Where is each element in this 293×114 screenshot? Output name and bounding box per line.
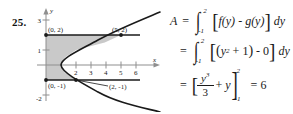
x-tick-label-3: 3 (89, 69, 93, 77)
function-f-arg: (y) (222, 14, 235, 29)
numerator-exponent: 3 (206, 71, 210, 79)
fraction-y-cubed-over-3: y3 3 (199, 72, 211, 98)
y-tick-label-neg2: -2 (36, 95, 42, 103)
integral-lower-limit-2: -1 (196, 57, 202, 65)
fraction-denominator: 3 (197, 85, 213, 98)
bracket-open-1: [ (212, 11, 218, 32)
integral-upper-limit-2: 2 (201, 37, 205, 45)
x-tick-label-2: 2 (74, 69, 78, 77)
point-label-0-2: (0, 2) (48, 26, 64, 34)
y-axis-label: y (49, 7, 54, 15)
minus-sign-2: - (256, 44, 260, 59)
y-axis-arrow (43, 8, 48, 15)
equation-line-3: = [ y3 3 + y 2 ] -1 = 6 (180, 70, 266, 100)
equation-line-1: A = 2 ∫ -1 [ f (y) - g (y) ] dy (170, 8, 285, 34)
y-tick-label-3: 3 (38, 17, 42, 25)
minus-sign-1: - (238, 14, 242, 29)
point-label-0-neg1: (0, -1) (48, 82, 66, 90)
bracket-close-1: ] (264, 11, 270, 32)
paren-close-2: ) (248, 44, 253, 58)
integral-upper-limit-1: 2 (203, 7, 207, 15)
integral-symbol-2: 2 ∫ -1 (192, 38, 209, 64)
area-symbol: A (170, 14, 177, 29)
integral-symbol-1: 2 ∫ -1 (194, 8, 211, 34)
equation-line-2: = 2 ∫ -1 [ ( y 2 + 1 ) - 0 ] dy (180, 38, 290, 64)
x-axis-label: x (152, 56, 157, 64)
point-label-2-neg1: (2, -1) (109, 83, 127, 91)
term-y: y (225, 78, 230, 93)
fraction-numerator: y3 (199, 72, 211, 85)
differential-1: dy (274, 14, 285, 29)
exponent-2: 2 (226, 47, 230, 55)
integral-lower-limit-1: -1 (198, 27, 204, 35)
differential-2: dy (278, 44, 289, 59)
equals-sign-2: = (180, 44, 187, 59)
eval-lower-limit: -1 (235, 95, 241, 103)
bracket-open-2: [ (210, 41, 216, 62)
x-tick-label-5: 5 (119, 69, 123, 77)
solution-equations: A = 2 ∫ -1 [ f (y) - g (y) ] dy = 2 ∫ -1… (170, 4, 293, 112)
equals-sign-1: = (182, 14, 189, 29)
problem-number: 25. (12, 16, 26, 28)
shaded-region (46, 35, 121, 80)
graph-figure: y x 3 1 -2 2 3 4 5 6 (0, 2) (5, 2) (0, -… (36, 2, 166, 112)
evaluation-bracket: 2 ] -1 (232, 70, 244, 100)
plus-sign-3: + (216, 78, 223, 93)
plus-sign-2: + (233, 44, 240, 59)
graph-svg: y x 3 1 -2 2 3 4 5 6 (0, 2) (5, 2) (0, -… (36, 2, 166, 112)
x-tick-label-4: 4 (104, 69, 108, 77)
figure-container: 25. (0, 0, 293, 114)
function-g-arg: (y) (251, 14, 264, 29)
bracket-open-3: [ (192, 75, 198, 96)
y-tick-label-1: 1 (38, 47, 42, 55)
equals-sign-3: = (180, 78, 187, 93)
point-label-5-2: (5, 2) (112, 26, 128, 34)
bracket-close-2: ] (269, 41, 275, 62)
x-tick-label-6: 6 (134, 69, 138, 77)
final-result: = 6 (251, 78, 267, 93)
